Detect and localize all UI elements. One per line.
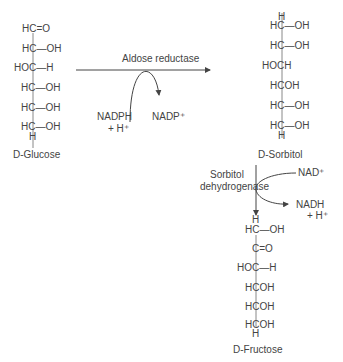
- sorbitol-dehydrogenase-label-2: dehydrogenase: [200, 182, 269, 192]
- glucose-row-6: HC—OH: [21, 122, 60, 132]
- glucose-label: D-Glucose: [13, 150, 60, 160]
- fructose-bottom-h: H: [252, 329, 259, 339]
- fructose-row-4: HCOH: [245, 283, 274, 293]
- sorbitol-row-4: HCOH: [270, 81, 299, 91]
- fructose-row-2: C=O: [252, 244, 273, 254]
- glucose-row-2: HC—OH: [22, 44, 61, 54]
- nadh-label: NADH: [296, 200, 324, 210]
- glucose-row-3: HOC—H: [14, 63, 53, 73]
- glucose-bottom-h: H: [29, 132, 36, 142]
- sorbitol-label: D-Sorbitol: [258, 150, 302, 160]
- nad-label: NAD⁺: [298, 168, 324, 178]
- fructose-row-6: HCOH: [245, 320, 274, 330]
- nadph-label: NADPH: [97, 112, 132, 122]
- sorbitol-row-1: HC—OH: [270, 21, 309, 31]
- nadph-h-label: + H⁺: [108, 124, 129, 134]
- fructose-row-1: HC—OH: [245, 225, 284, 235]
- nadp-label: NADP⁺: [152, 112, 185, 122]
- sorbitol-row-5: HC—OH: [270, 101, 309, 111]
- aldose-reductase-label: Aldose reductase: [122, 54, 199, 64]
- fructose-row-5: HCOH: [245, 302, 274, 312]
- glucose-row-5: HC—OH: [21, 103, 60, 113]
- sorbitol-bottom-h: H: [278, 131, 285, 141]
- fructose-label: D-Fructose: [233, 345, 282, 355]
- fructose-row-3: HOC—H: [237, 263, 276, 273]
- glucose-row-4: HC—OH: [21, 83, 60, 93]
- nadh-h-label: + H⁺: [307, 211, 328, 221]
- sorbitol-row-6: HC—OH: [270, 121, 309, 131]
- glucose-row-1: HC=O: [22, 24, 50, 34]
- sorbitol-dehydrogenase-label-1: Sorbitol: [210, 170, 244, 180]
- sorbitol-row-3: HOCH: [262, 61, 291, 71]
- sorbitol-row-2: HC—OH: [270, 41, 309, 51]
